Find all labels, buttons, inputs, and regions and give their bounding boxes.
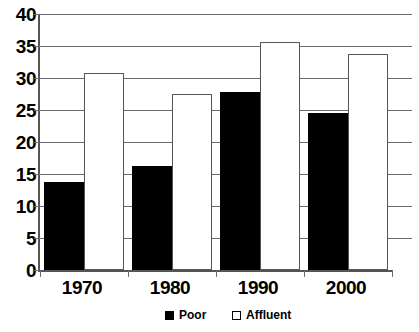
y-tick-label: 10 [2, 197, 36, 216]
x-tick-label-2000: 2000 [326, 278, 366, 297]
legend-label: Affluent [246, 309, 291, 321]
legend-swatch-poor-icon [165, 311, 174, 320]
legend-item-affluent[interactable]: Affluent [232, 309, 291, 321]
y-tick-mark [34, 78, 40, 79]
x-tick-mark [304, 270, 305, 277]
bar-poor-1980 [132, 166, 172, 270]
x-axis-labels: 1970198019902000 [38, 278, 390, 304]
y-tick-label: 0 [2, 261, 36, 280]
y-tick-label: 25 [2, 101, 36, 120]
x-tick-label-1980: 1980 [150, 278, 190, 297]
x-tick-mark [40, 270, 41, 277]
y-tick-label: 30 [2, 69, 36, 88]
bar-affluent-1970 [84, 73, 124, 270]
plot-area [38, 14, 392, 272]
x-tick-mark [216, 270, 217, 277]
bar-poor-1990 [220, 92, 260, 270]
bar-affluent-1990 [260, 42, 300, 270]
y-axis-labels: 0510152025303540 [0, 0, 36, 332]
y-tick-mark [34, 206, 40, 207]
x-tick-label-1990: 1990 [238, 278, 278, 297]
y-tick-label: 15 [2, 165, 36, 184]
y-tick-mark [34, 174, 40, 175]
legend-item-poor[interactable]: Poor [165, 309, 206, 321]
y-tick-mark [34, 14, 40, 15]
y-tick-mark [34, 46, 40, 47]
chart-legend: PoorAffluent [0, 309, 419, 329]
x-tick-mark [392, 270, 393, 277]
y-tick-mark [34, 110, 40, 111]
gridline [40, 46, 412, 47]
legend-swatch-affluent-icon [232, 311, 241, 320]
y-tick-mark [34, 142, 40, 143]
bar-poor-2000 [308, 113, 348, 270]
y-tick-mark [34, 238, 40, 239]
bar-chart: 0510152025303540 1970198019902000 PoorAf… [0, 0, 419, 332]
bar-poor-1970 [44, 182, 84, 270]
y-tick-label: 35 [2, 37, 36, 56]
x-tick-mark [128, 270, 129, 277]
x-tick-label-1970: 1970 [62, 278, 102, 297]
bar-affluent-2000 [348, 54, 388, 270]
y-tick-label: 40 [2, 5, 36, 24]
gridline [40, 14, 412, 15]
y-tick-label: 20 [2, 133, 36, 152]
y-tick-label: 5 [2, 229, 36, 248]
legend-label: Poor [179, 309, 206, 321]
bar-affluent-1980 [172, 94, 212, 270]
